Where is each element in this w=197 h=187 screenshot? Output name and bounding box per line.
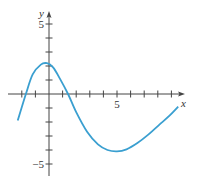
function-curve — [18, 63, 178, 151]
y-tick-label: −5 — [32, 158, 44, 170]
x-tick-label: 5 — [114, 98, 120, 110]
function-graph: x y 55−5 — [0, 0, 197, 187]
y-tick-label: 5 — [39, 18, 45, 30]
axes — [8, 11, 185, 176]
x-axis-label: x — [180, 97, 186, 109]
